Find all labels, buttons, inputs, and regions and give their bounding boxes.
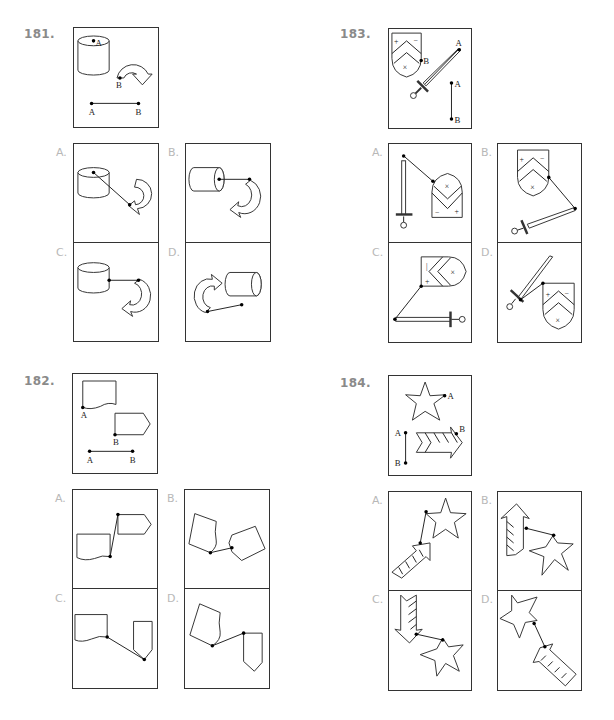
option-label-c: C. bbox=[372, 593, 383, 606]
option-a[interactable]: × − + bbox=[388, 143, 472, 243]
option-a-figure bbox=[74, 144, 158, 242]
option-b[interactable] bbox=[497, 491, 582, 591]
cylinder-and-curved-arrow-example: A B A B bbox=[74, 28, 158, 127]
option-d-figure: + − × bbox=[498, 243, 581, 342]
wavy-rect-and-pentagon-example: A B A B bbox=[73, 374, 157, 473]
svg-text:B: B bbox=[113, 437, 119, 447]
svg-text:×: × bbox=[451, 268, 455, 277]
svg-text:+: + bbox=[519, 155, 524, 164]
option-d[interactable] bbox=[185, 242, 271, 342]
option-c-figure bbox=[389, 591, 471, 690]
svg-text:×: × bbox=[445, 182, 449, 191]
star-and-chevron-arrow-example: A B A B bbox=[389, 376, 471, 475]
option-d[interactable]: + − × bbox=[497, 242, 582, 343]
option-c[interactable]: | × + bbox=[388, 242, 472, 343]
question-number: 183. bbox=[340, 27, 371, 41]
svg-text:×: × bbox=[403, 63, 407, 72]
svg-text:A: A bbox=[81, 410, 88, 420]
option-b[interactable] bbox=[185, 143, 271, 243]
svg-text:A: A bbox=[87, 455, 94, 465]
option-label-d: D. bbox=[167, 592, 179, 605]
option-label-d: D. bbox=[481, 246, 493, 259]
option-label-a: A. bbox=[372, 494, 383, 507]
svg-text:×: × bbox=[530, 183, 534, 192]
svg-text:−: − bbox=[564, 289, 569, 298]
option-label-d: D. bbox=[168, 246, 180, 259]
option-d-figure bbox=[498, 591, 581, 690]
option-c[interactable] bbox=[73, 242, 159, 342]
option-b-figure: + − × bbox=[498, 144, 581, 242]
svg-text:−: − bbox=[540, 154, 545, 163]
option-a-figure bbox=[389, 492, 471, 590]
example-figure: + − × B A A B bbox=[388, 28, 472, 129]
svg-text:B: B bbox=[116, 80, 122, 90]
option-a[interactable] bbox=[72, 489, 158, 589]
svg-text:B: B bbox=[459, 424, 465, 434]
option-d[interactable] bbox=[184, 588, 270, 689]
example-figure: A B A B bbox=[388, 375, 472, 476]
option-c-figure bbox=[73, 589, 157, 688]
svg-text:A: A bbox=[395, 428, 402, 438]
svg-text:B: B bbox=[395, 458, 401, 468]
svg-text:|: | bbox=[426, 262, 428, 271]
svg-text:+: + bbox=[546, 290, 551, 299]
shield-and-sword-example: + − × B A A B bbox=[389, 29, 471, 128]
option-label-a: A. bbox=[55, 492, 66, 505]
option-b-figure bbox=[498, 492, 581, 590]
svg-text:+: + bbox=[454, 207, 459, 216]
option-c-figure bbox=[74, 243, 158, 341]
option-d[interactable] bbox=[497, 590, 582, 691]
svg-text:−: − bbox=[413, 36, 418, 45]
option-b-figure bbox=[185, 490, 269, 588]
question-number: 181. bbox=[24, 27, 55, 41]
option-d-figure bbox=[186, 243, 270, 341]
svg-text:A: A bbox=[455, 38, 462, 48]
option-label-a: A. bbox=[372, 146, 383, 159]
option-label-c: C. bbox=[56, 246, 67, 259]
option-b-figure bbox=[186, 144, 270, 242]
svg-text:B: B bbox=[423, 56, 429, 66]
svg-text:A: A bbox=[89, 107, 96, 117]
svg-text:+: + bbox=[394, 37, 399, 46]
example-figure: A B A B bbox=[72, 373, 158, 474]
question-number: 182. bbox=[24, 374, 55, 388]
question-number: 184. bbox=[340, 376, 371, 390]
svg-text:B: B bbox=[130, 455, 136, 465]
example-figure: A B A B bbox=[73, 27, 159, 128]
svg-text:A: A bbox=[95, 38, 102, 48]
svg-text:+: + bbox=[425, 277, 430, 286]
option-d-figure bbox=[185, 589, 269, 688]
option-a[interactable] bbox=[388, 491, 472, 591]
option-label-d: D. bbox=[481, 593, 493, 606]
svg-text:×: × bbox=[556, 316, 560, 325]
option-a-figure: × − + bbox=[389, 144, 471, 242]
svg-text:B: B bbox=[454, 115, 460, 125]
option-a[interactable] bbox=[73, 143, 159, 243]
option-label-b: B. bbox=[168, 146, 179, 159]
option-label-c: C. bbox=[372, 246, 383, 259]
option-c[interactable] bbox=[72, 588, 158, 689]
svg-text:A: A bbox=[448, 391, 455, 401]
option-c[interactable] bbox=[388, 590, 472, 691]
option-b[interactable] bbox=[184, 489, 270, 589]
option-a-figure bbox=[73, 490, 157, 588]
svg-text:A: A bbox=[454, 79, 461, 89]
option-label-c: C. bbox=[55, 592, 66, 605]
option-label-a: A. bbox=[56, 146, 67, 159]
svg-text:−: − bbox=[435, 208, 440, 217]
option-b[interactable]: + − × bbox=[497, 143, 582, 243]
option-label-b: B. bbox=[481, 146, 492, 159]
option-label-b: B. bbox=[481, 494, 492, 507]
svg-text:B: B bbox=[136, 107, 142, 117]
option-label-b: B. bbox=[167, 492, 178, 505]
option-c-figure: | × + bbox=[389, 243, 471, 342]
